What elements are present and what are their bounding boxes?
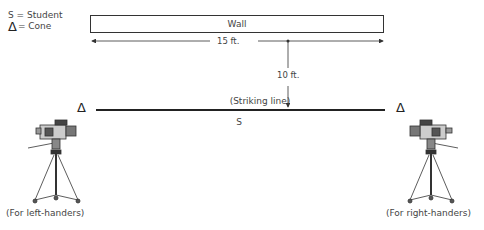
cone-icon-left: Δ xyxy=(77,101,86,114)
camera-tripod-icon-right xyxy=(408,120,458,203)
width-dimension-label: 15 ft. xyxy=(213,36,243,46)
right-camera-caption: (For right-handers) xyxy=(386,208,471,218)
distance-dimension-label: 10 ft. xyxy=(275,70,301,80)
cone-icon-right: Δ xyxy=(396,101,405,114)
diagram-lines xyxy=(0,0,484,230)
striking-line-label: (Striking line) xyxy=(200,96,320,106)
left-camera-caption: (For left-handers) xyxy=(6,208,84,218)
camera-tripod-icon-left xyxy=(28,120,80,203)
student-marker: S xyxy=(229,117,249,127)
